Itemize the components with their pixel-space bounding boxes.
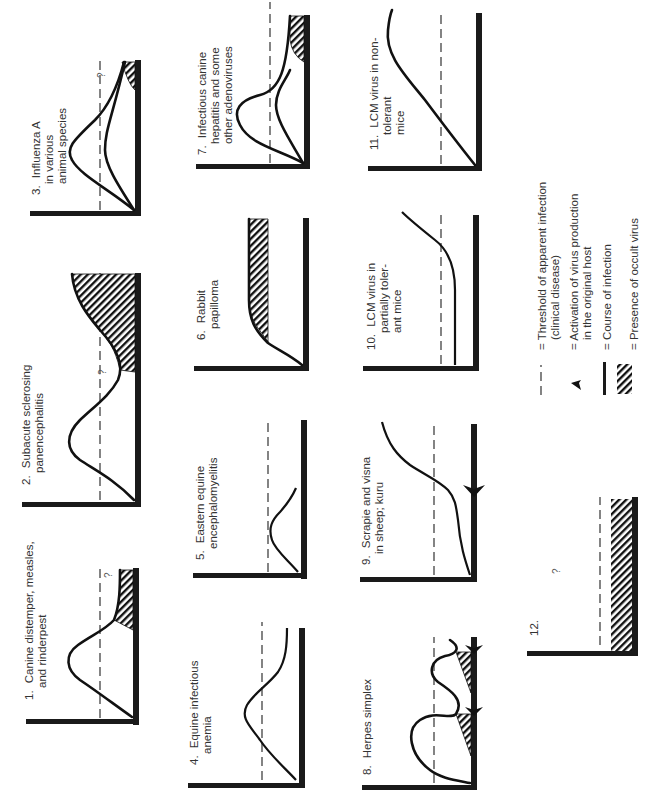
virus-axis (196, 164, 310, 169)
virus-axis (188, 783, 305, 788)
infection-curve (382, 422, 470, 575)
question-mark: ? (103, 572, 114, 578)
panel-11-lcm-nontolerant: 11. LCM virus in non- tolerant mice (368, 10, 482, 171)
occult-virus-hatching (72, 274, 135, 372)
panel-5-eastern-equine-encephalomyelitis: 5. Eastern equine encephalomyelitis (193, 418, 307, 579)
infection-curve (245, 628, 296, 780)
time-axis (304, 15, 310, 169)
time-axis (135, 60, 141, 216)
infection-curve (402, 212, 455, 365)
solid-line-symbol (603, 362, 606, 395)
panel-10-lcm-partially-tolerant: 10. LCM virus in partially toler- ant mi… (363, 212, 479, 371)
virus-axis (368, 166, 482, 171)
panel-6-rabbit-papilloma: 6. Rabbit papilloma (194, 218, 309, 371)
legend-text: = Activation of virus production in the … (568, 191, 593, 351)
time-axis (133, 568, 139, 725)
time-axis (476, 13, 482, 171)
virus-axis (26, 719, 139, 724)
occult-virus-hatching (611, 499, 632, 651)
arrowhead-icon (571, 380, 581, 390)
panel-label: 9. Scrapie and visna in sheep; kuru (360, 454, 385, 565)
legend-text: = Threshold of apparent infection (clini… (536, 179, 561, 350)
panel-2-sspe: ? 2. Subacute sclerosing panencephalitis (20, 273, 141, 507)
panel-8-herpes-simplex: 8. Herpes simplex (361, 637, 483, 790)
panel-label: 5. Eastern equine encephalomyelitis (194, 457, 219, 560)
legend-text: = Course of infection (601, 244, 613, 350)
infection-curve (270, 488, 298, 572)
hatching-symbol (617, 364, 632, 394)
panel-label: 4. Equine infectious anemia (188, 657, 213, 765)
virus-axis (527, 651, 638, 656)
infection-curve-high (70, 62, 134, 210)
infection-curve-low (276, 70, 303, 163)
panel-label: 8. Herpes simplex (361, 679, 373, 775)
time-axis (303, 218, 309, 371)
question-mark: ? (97, 369, 108, 375)
time-axis (301, 420, 307, 579)
legend: = Threshold of apparent infection (clini… (536, 179, 640, 395)
virus-axis (22, 502, 141, 507)
legend-threshold: = Threshold of apparent infection (clini… (536, 179, 561, 395)
panel-label: 6. Rabbit papilloma (195, 279, 220, 340)
time-axis (473, 215, 479, 371)
panel-label: 12. (528, 620, 540, 636)
time-axis (632, 497, 638, 656)
infection-curve-low (105, 62, 134, 210)
time-axis (135, 273, 141, 507)
legend-activation: = Activation of virus production in the … (568, 191, 593, 391)
occult-virus-hatching (456, 714, 471, 756)
virus-axis (194, 366, 309, 371)
panel-9-scrapie-visna-kuru: 9. Scrapie and visna in sheep; kuru (360, 422, 485, 582)
panel-3-influenza-a: ? 3. Influenza A in various animal speci… (30, 60, 141, 216)
panel-4-equine-infectious-anemia: 4. Equine infectious anemia (188, 622, 305, 788)
panel-label: 7. Infectious canine hepatitis and some … (196, 44, 234, 155)
panel-1-canine-distemper: ? 1. Canine distemper, measles, and rind… (23, 538, 139, 725)
legend-course: = Course of infection (601, 244, 613, 395)
occult-virus-hatching (114, 570, 133, 630)
virus-axis (360, 577, 477, 582)
legend-occult: = Presence of occult virus (617, 218, 640, 394)
occult-virus-hatching (456, 652, 471, 693)
occult-virus-hatching (290, 16, 304, 62)
time-axis (471, 424, 477, 582)
virus-axis (193, 573, 307, 578)
panel-12: ? 12. (527, 497, 638, 656)
occult-virus-hatching (249, 219, 268, 343)
panel-label: 11. LCM virus in non- tolerant mice (368, 34, 406, 150)
panel-label: 10. LCM virus in partially toler- ant mi… (365, 260, 403, 350)
panel-label: 3. Influenza A in various animal species (30, 108, 68, 195)
question-mark: ? (96, 72, 107, 78)
panel-label: 2. Subacute sclerosing panencephalitis (20, 361, 45, 485)
virus-infection-patterns-figure: ? 3. Influenza A in various animal speci… (0, 0, 652, 809)
virus-axis (363, 366, 479, 371)
virus-axis (362, 785, 477, 790)
panel-label: 1. Canine distemper, measles, and rinder… (23, 538, 48, 700)
legend-text: = Presence of occult virus (628, 218, 640, 350)
infection-curve (388, 10, 475, 165)
time-axis (299, 628, 305, 788)
virus-axis (30, 211, 141, 216)
question-mark: ? (551, 568, 562, 574)
panel-7-canine-hepatitis: 7. Infectious canine hepatitis and some … (196, 2, 310, 169)
